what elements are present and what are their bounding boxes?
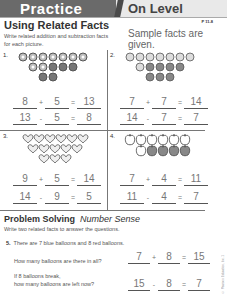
heart-picture <box>11 133 101 165</box>
answer-blank[interactable]: 7 <box>188 278 210 291</box>
copyright-notice: © Pearson Education, Inc. 1 <box>221 255 225 294</box>
answer-blank[interactable]: 13 <box>13 112 37 125</box>
answer-blank[interactable]: 7 <box>120 173 144 186</box>
answer-blank[interactable]: 11 <box>120 191 144 204</box>
answer-blank[interactable]: 7 <box>184 191 208 204</box>
subtraction-fact: 14 - 9 = 5 <box>9 191 99 205</box>
apples-icon <box>118 133 208 157</box>
page-header: Practice On Level <box>0 0 227 18</box>
problem-number: 4. <box>110 133 115 139</box>
answer-blank[interactable]: 4 <box>152 173 176 186</box>
answer-blank[interactable]: 5 <box>45 173 69 186</box>
subtraction-fact: 13 - 5 = 8 <box>9 112 99 126</box>
addition-fact: 9 + 5 = 14 <box>9 173 99 187</box>
answer-blank[interactable]: 14 <box>77 173 101 186</box>
problem-solving-heading: Problem Solving Number Sense <box>4 214 140 224</box>
answer-blank[interactable]: 7 <box>184 112 208 125</box>
answer-blank[interactable]: 14 <box>13 191 37 204</box>
ball-picture <box>118 52 208 84</box>
problem-number: 3. <box>3 133 8 139</box>
level-label: On Level <box>128 0 183 17</box>
answer-blank[interactable]: 5 <box>45 96 69 109</box>
answer-blank[interactable]: 11 <box>184 173 208 186</box>
problem-number: 1. <box>3 52 8 58</box>
answer-blank[interactable]: 9 <box>13 173 37 186</box>
addition-fact: 7 + 4 = 11 <box>116 173 206 187</box>
question-5a-answer: 7 + 8 = 15 <box>126 251 210 265</box>
answer-blank[interactable]: 15 <box>188 251 210 264</box>
question-5: 5. There are 7 blue balloons and 8 red b… <box>6 240 124 246</box>
problem-4: 4. 7 + 4 = 11 11 - 4 = 7 <box>110 133 210 213</box>
answer-blank[interactable]: 9 <box>45 191 69 204</box>
question-5a: How many balloons are there in all? <box>14 257 101 265</box>
subtraction-fact: 14 - 7 = 7 <box>116 112 206 126</box>
answer-blank[interactable]: 13 <box>77 96 101 109</box>
problem-1: 1. 8 + 5 = 13 13 - 5 = 8 <box>3 52 103 132</box>
addition-fact: 7 + 7 = 14 <box>116 96 206 110</box>
question-5b-answer: 15 - 8 = 7 <box>126 278 210 292</box>
answer-blank[interactable]: 5 <box>77 191 101 204</box>
instructions: Write related addition and subtraction f… <box>4 32 116 48</box>
counter-picture <box>11 52 101 84</box>
page-title: Using Related Facts <box>4 19 109 31</box>
answer-blank[interactable]: 7 <box>120 96 144 109</box>
answer-blank[interactable]: 8 <box>158 278 180 291</box>
answer-blank[interactable]: 7 <box>152 112 176 125</box>
problem-solving-subtitle: Number Sense <box>80 214 140 224</box>
problem-solving-instructions: Write two related facts to answer the qu… <box>4 226 119 232</box>
answer-blank[interactable]: 14 <box>120 112 144 125</box>
answer-blank[interactable]: 14 <box>184 96 208 109</box>
problem-2: 2. 7 + 7 = 14 14 - 7 = 7 <box>110 52 210 132</box>
answer-blank[interactable]: 4 <box>152 191 176 204</box>
answer-blank[interactable]: 5 <box>45 112 69 125</box>
subtraction-fact: 11 - 4 = 7 <box>116 191 206 205</box>
practice-label: Practice <box>0 0 116 17</box>
balls-icon <box>118 52 208 84</box>
question-5b: If 8 balloons break, how many balloons a… <box>14 272 94 288</box>
addition-fact: 8 + 5 = 13 <box>9 96 99 110</box>
page-number: P 11-8 <box>202 19 214 24</box>
answer-blank[interactable]: 7 <box>128 251 150 264</box>
answer-blank[interactable]: 8 <box>77 112 101 125</box>
answer-blank[interactable]: 7 <box>152 96 176 109</box>
problem-number: 2. <box>110 52 115 58</box>
sample-note: Sample facts are given. <box>128 28 218 50</box>
counters-icon <box>11 52 101 84</box>
answer-blank[interactable]: 15 <box>128 278 150 291</box>
problem-3: 3. 9 + 5 = 14 14 - 9 = 5 <box>3 133 103 213</box>
apple-picture <box>118 133 208 157</box>
answer-blank[interactable]: 8 <box>158 251 180 264</box>
hearts-icon <box>11 133 101 165</box>
answer-blank[interactable]: 8 <box>13 96 37 109</box>
